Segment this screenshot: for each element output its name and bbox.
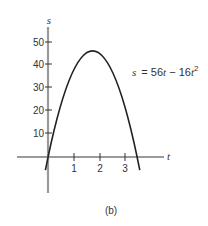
x-tick-label-2: 2: [97, 163, 103, 174]
chart-figure: 50 40 30 20 10 1 2 3 s t s = 56t − 16t2 …: [0, 0, 208, 226]
figure-caption: (b): [105, 205, 117, 216]
parabola-curve: [45, 51, 139, 170]
y-tick-label-30: 30: [33, 82, 45, 93]
y-tick-label-10: 10: [33, 128, 45, 139]
y-tick-label-50: 50: [33, 37, 45, 48]
y-axis-label: s: [47, 14, 51, 26]
y-tick-label-20: 20: [33, 105, 45, 116]
x-axis-label: t: [167, 150, 171, 162]
x-tick-label-1: 1: [71, 163, 77, 174]
y-tick-label-40: 40: [33, 59, 45, 70]
x-tick-label-3: 3: [122, 163, 128, 174]
equation-label: s = 56t − 16t2: [132, 64, 199, 78]
